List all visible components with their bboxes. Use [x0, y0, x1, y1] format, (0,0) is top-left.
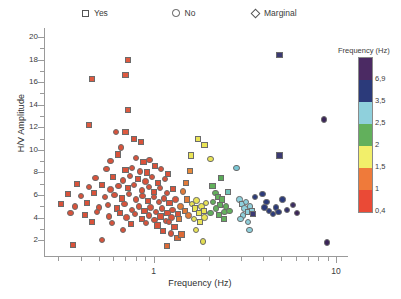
- scatter-point: [120, 177, 126, 183]
- x-axis-minor-tick: [99, 257, 100, 261]
- scatter-point: [246, 227, 252, 233]
- scatter-point: [106, 213, 112, 219]
- scatter-point: [201, 142, 207, 148]
- scatter-point: [126, 191, 132, 197]
- colorbar-title: Frequency (Hz): [338, 46, 390, 55]
- scatter-point: [117, 210, 123, 216]
- y-axis-tick-label: 20: [16, 32, 38, 41]
- scatter-point: [145, 198, 151, 204]
- scatter-point: [191, 216, 197, 222]
- x-axis-minor-tick: [125, 257, 126, 261]
- scatter-point: [252, 194, 258, 200]
- legend-label-yes: Yes: [94, 8, 108, 18]
- colorbar-tick-label: 1: [375, 184, 379, 193]
- scatter-point: [123, 214, 129, 220]
- scatter-point: [207, 156, 213, 162]
- x-axis-tick: [336, 257, 337, 263]
- scatter-point: [86, 122, 92, 128]
- scatter-point: [294, 210, 300, 216]
- scatter-point: [218, 175, 224, 181]
- scatter-point: [84, 200, 90, 206]
- scatter-point: [172, 196, 178, 202]
- scatter-point: [129, 165, 135, 171]
- colorbar-tick-label: 2,5: [375, 118, 385, 127]
- x-axis-tick-label: 1: [144, 266, 164, 276]
- scatter-point: [178, 231, 184, 237]
- scatter-point: [164, 243, 170, 249]
- x-axis-minor-tick: [263, 257, 264, 261]
- scatter-point: [201, 214, 207, 220]
- scatter-point: [279, 196, 285, 202]
- colorbar-band: [359, 102, 372, 124]
- legend-label-marginal: Marginal: [264, 8, 297, 18]
- x-axis-minor-tick: [241, 257, 242, 261]
- scatter-point: [58, 201, 64, 207]
- scatter-point: [115, 183, 121, 189]
- scatter-point: [162, 176, 168, 182]
- colorbar-band: [359, 168, 372, 190]
- x-axis-minor-tick: [136, 257, 137, 261]
- scatter-point: [107, 158, 113, 164]
- colorbar-tick-label: 2: [375, 140, 379, 149]
- scatter-point: [176, 216, 182, 222]
- scatter-point: [188, 152, 194, 158]
- scatter-point: [128, 221, 134, 227]
- scatter-point: [99, 237, 105, 243]
- scatter-point: [131, 136, 137, 142]
- x-axis-line: [44, 256, 348, 257]
- x-axis-title: Frequency (Hz): [120, 278, 280, 288]
- scatter-point: [133, 196, 139, 202]
- scatter-point: [213, 205, 219, 211]
- scatter-point: [195, 136, 201, 142]
- scatter-point: [203, 200, 209, 206]
- x-axis-minor-tick: [318, 257, 319, 261]
- scatter-point: [122, 129, 128, 135]
- scatter-point: [121, 201, 127, 207]
- scatter-point: [99, 182, 105, 188]
- colorbar-band: [359, 124, 372, 146]
- scatter-point: [201, 208, 207, 214]
- x-axis-minor-tick: [113, 257, 114, 261]
- scatter-point: [157, 185, 163, 191]
- y-axis-title: H/V Amplitude: [16, 68, 26, 178]
- scatter-point: [168, 230, 174, 236]
- scatter-point: [89, 219, 95, 225]
- x-axis-minor-tick: [81, 257, 82, 261]
- scatter-point: [209, 183, 215, 189]
- x-axis-minor-tick: [308, 257, 309, 261]
- scatter-point: [65, 191, 71, 197]
- scatter-point: [122, 72, 128, 78]
- chart-legend: Yes No Marginal: [0, 8, 401, 26]
- scatter-point: [72, 203, 78, 209]
- x-axis-tick: [154, 257, 155, 263]
- colorbar-tick-label: 1,5: [375, 162, 385, 171]
- scatter-point: [74, 181, 80, 187]
- y-axis-tick-label: 2: [16, 235, 38, 244]
- legend-entry-no: No: [172, 8, 195, 18]
- scatter-point: [67, 210, 73, 216]
- scatter-point: [127, 173, 133, 179]
- scatter-point: [94, 209, 100, 215]
- scatter-point: [225, 189, 231, 195]
- scatter-point: [290, 202, 296, 208]
- scatter-point: [78, 193, 84, 199]
- scatter-point: [284, 207, 290, 213]
- scatter-point: [110, 174, 116, 180]
- scatter-point: [221, 216, 227, 222]
- scatter-point: [207, 210, 213, 216]
- diamond-marker-icon: [251, 8, 261, 18]
- colorbar-band: [359, 58, 372, 80]
- scatter-point: [180, 188, 186, 194]
- scatter-point: [200, 238, 206, 244]
- x-axis-minor-tick: [296, 257, 297, 261]
- scatter-point: [210, 199, 216, 205]
- legend-entry-marginal: Marginal: [252, 8, 297, 18]
- scatter-point: [233, 165, 239, 171]
- scatter-point: [91, 190, 97, 196]
- scatter-point: [125, 107, 131, 113]
- x-axis-minor-tick: [145, 257, 146, 261]
- colorbar-gradient: [358, 57, 373, 213]
- scatter-point: [131, 182, 137, 188]
- colorbar-band: [359, 80, 372, 102]
- scatter-points-layer: [44, 28, 347, 256]
